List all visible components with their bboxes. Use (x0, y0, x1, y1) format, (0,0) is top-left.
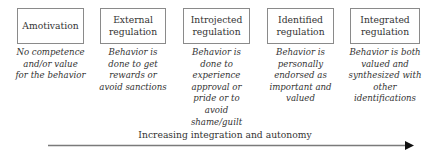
description-line: important and (269, 82, 331, 94)
continuum-arrow (48, 141, 416, 150)
description-line: approval or (191, 82, 242, 94)
stage-title-line: External (113, 14, 153, 26)
stage-description: Behavior is both valued and synthesized … (349, 47, 422, 105)
arrow-right-icon (48, 141, 416, 150)
stage-title-line: regulation (109, 26, 157, 38)
description-line: endorsed as (269, 70, 331, 82)
description-line: and/or value (15, 59, 85, 71)
description-line: personally (269, 59, 331, 71)
stage-title-line: Identified (278, 14, 323, 26)
description-line: done to (191, 59, 242, 71)
stage-description: Behavior is done to get rewards or avoid… (99, 47, 166, 93)
stage-description: Behavior is personally endorsed as impor… (269, 47, 331, 105)
description-line: pride or to (191, 93, 242, 105)
description-line: synthesized with (349, 70, 422, 82)
stage-title-line: Introjected (191, 14, 243, 26)
description-line: shame/guilt (191, 117, 242, 129)
description-line: Behavior is (99, 47, 166, 59)
description-line: Behavior is both (349, 47, 422, 59)
motivation-continuum-diagram: Amotivation No competence and/or value f… (0, 0, 435, 161)
description-line: avoid sanctions (99, 82, 166, 94)
description-line: rewards or (99, 70, 166, 82)
stage-title-line: regulation (276, 26, 324, 38)
stage-title-line: regulation (192, 26, 240, 38)
stage-description: Behavior is done to experience approval … (191, 47, 242, 128)
stage-introjected-regulation: Introjected regulation Behavior is done … (183, 8, 250, 128)
description-line: Behavior is (269, 47, 331, 59)
stage-amotivation: Amotivation No competence and/or value f… (17, 8, 84, 82)
stage-box: Introjected regulation (183, 8, 250, 44)
stage-box: External regulation (100, 8, 166, 44)
description-line: valued and (349, 59, 422, 71)
stage-description: No competence and/or value for the behav… (15, 47, 85, 82)
stage-identified-regulation: Identified regulation Behavior is person… (267, 8, 334, 105)
description-line: Behavior is (191, 47, 242, 59)
stage-box: Integrated regulation (350, 8, 420, 44)
description-line: other (349, 82, 422, 94)
stage-title-line: regulation (361, 26, 409, 38)
stage-title: Amotivation (22, 20, 78, 32)
stage-title-line: Integrated (360, 14, 409, 26)
axis-label: Increasing integration and autonomy (0, 129, 435, 140)
description-line: valued (269, 93, 331, 105)
stage-external-regulation: External regulation Behavior is done to … (100, 8, 166, 93)
description-line: experience (191, 70, 242, 82)
description-line: identifications (349, 93, 422, 105)
description-line: done to get (99, 59, 166, 71)
stage-box: Identified regulation (267, 8, 334, 44)
description-line: No competence (15, 47, 85, 59)
stage-box: Amotivation (17, 8, 84, 44)
description-line: avoid (191, 105, 242, 117)
description-line: for the behavior (15, 70, 85, 82)
stage-integrated-regulation: Integrated regulation Behavior is both v… (350, 8, 420, 105)
